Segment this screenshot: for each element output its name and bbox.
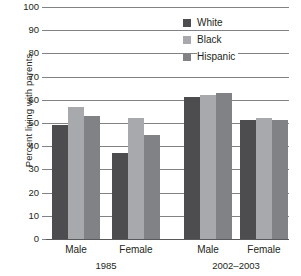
- y-tick-mark-50: [42, 123, 46, 124]
- legend-swatch-icon-hispanic: [183, 53, 191, 61]
- x-tick-label-1: Female: [106, 244, 166, 255]
- legend-swatch-icon-black: [183, 36, 191, 44]
- bar-hispanic-3: [272, 120, 288, 239]
- gridline-70: [46, 77, 289, 78]
- bar-chart: Percent living with parents 100908070605…: [0, 0, 301, 276]
- legend-item-black: Black: [183, 31, 273, 48]
- x-period-label-0: 1985: [61, 260, 151, 271]
- y-tick-label-40: 40: [13, 141, 39, 151]
- legend-label-black: Black: [197, 34, 224, 45]
- y-tick-mark-20: [42, 193, 46, 194]
- bar-white-2: [184, 97, 200, 239]
- y-tick-mark-60: [42, 100, 46, 101]
- chart-legend: WhiteBlackHispanic: [183, 14, 273, 65]
- bar-black-1: [128, 118, 144, 239]
- x-period-label-1: 2002–2003: [191, 260, 281, 271]
- y-tick-mark-70: [42, 77, 46, 78]
- y-tick-mark-40: [42, 146, 46, 147]
- y-tick-label-20: 20: [13, 188, 39, 198]
- y-tick-label-50: 50: [13, 118, 39, 128]
- y-tick-label-70: 70: [13, 72, 39, 82]
- y-tick-mark-100: [42, 7, 46, 8]
- y-tick-label-30: 30: [13, 164, 39, 174]
- bar-hispanic-0: [84, 116, 100, 239]
- legend-label-white: White: [197, 17, 226, 28]
- bar-white-3: [240, 120, 256, 239]
- bar-black-0: [68, 107, 84, 239]
- y-tick-label-80: 80: [13, 48, 39, 58]
- legend-swatch-icon-white: [183, 19, 191, 27]
- legend-item-hispanic: Hispanic: [183, 48, 273, 65]
- bar-black-2: [200, 95, 216, 239]
- gridline-100: [46, 7, 289, 8]
- gridline-0: [46, 239, 289, 240]
- y-tick-mark-90: [42, 30, 46, 31]
- y-tick-label-100: 100: [13, 2, 39, 12]
- bar-white-1: [112, 153, 128, 239]
- bar-hispanic-2: [216, 93, 232, 239]
- y-tick-label-60: 60: [13, 95, 39, 105]
- legend-item-white: White: [183, 14, 273, 31]
- bar-hispanic-1: [144, 135, 160, 239]
- bar-black-3: [256, 118, 272, 239]
- y-tick-label-0: 0: [13, 234, 39, 244]
- y-tick-mark-30: [42, 169, 46, 170]
- bar-white-0: [52, 125, 68, 239]
- y-tick-mark-10: [42, 216, 46, 217]
- legend-label-hispanic: Hispanic: [197, 51, 238, 62]
- gridline-60: [46, 100, 289, 101]
- y-tick-label-90: 90: [13, 25, 39, 35]
- y-tick-label-10: 10: [13, 211, 39, 221]
- y-tick-mark-80: [42, 53, 46, 54]
- x-tick-label-0: Male: [46, 244, 106, 255]
- x-tick-label-3: Female: [234, 244, 294, 255]
- x-tick-label-2: Male: [178, 244, 238, 255]
- y-tick-mark-0: [42, 239, 46, 240]
